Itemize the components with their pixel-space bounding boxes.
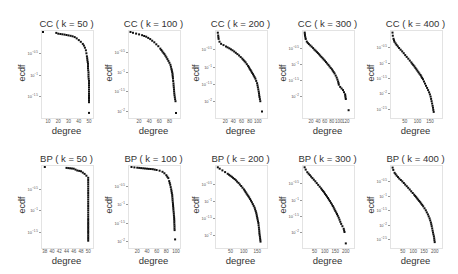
ecdf-points [0,0,458,274]
